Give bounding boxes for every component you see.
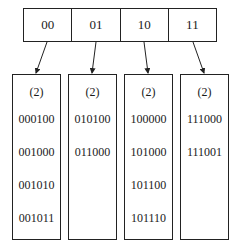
arrow-01 xyxy=(92,42,96,73)
arrow-00 xyxy=(36,42,47,73)
bucket-01: (2) 010100 011000 xyxy=(68,74,117,240)
bucket-key: 101100 xyxy=(125,169,172,202)
bucket-key: 111000 xyxy=(181,103,228,136)
local-depth: (2) xyxy=(69,81,116,103)
bucket-key: 100000 xyxy=(125,103,172,136)
bucket-key: 101000 xyxy=(125,136,172,169)
directory-cell-01: 01 xyxy=(72,9,120,41)
directory: 00 01 10 11 xyxy=(23,8,217,42)
bucket-key: 010100 xyxy=(69,103,116,136)
bucket-key: 000100 xyxy=(13,103,60,136)
directory-cell-00: 00 xyxy=(24,9,72,41)
arrow-11 xyxy=(193,42,204,73)
bucket-key: 001011 xyxy=(13,202,60,235)
bucket-key: 111001 xyxy=(181,136,228,169)
directory-cell-10: 10 xyxy=(121,9,169,41)
bucket-10: (2) 100000 101000 101100 101110 xyxy=(124,74,173,240)
bucket-key: 101110 xyxy=(125,202,172,235)
directory-cell-11: 11 xyxy=(169,9,216,41)
local-depth: (2) xyxy=(125,81,172,103)
bucket-11: (2) 111000 111001 xyxy=(180,74,229,240)
bucket-key: 001010 xyxy=(13,169,60,202)
bucket-key: 011000 xyxy=(69,136,116,169)
arrow-10 xyxy=(144,42,148,73)
local-depth: (2) xyxy=(13,81,60,103)
local-depth: (2) xyxy=(181,81,228,103)
bucket-key: 001000 xyxy=(13,136,60,169)
bucket-00: (2) 000100 001000 001010 001011 xyxy=(12,74,61,240)
